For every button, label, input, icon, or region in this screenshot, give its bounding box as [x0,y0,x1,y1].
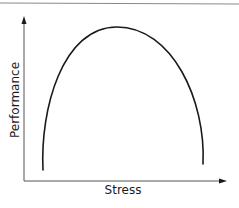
y-axis-label: Performance [8,62,22,138]
yerkes-dodson-diagram [0,0,239,208]
x-axis-label: Stress [105,183,142,197]
diagram-frame: Performance Stress [0,0,239,208]
x-axis-arrow-icon [219,179,227,184]
y-axis-arrow-icon [22,16,27,24]
performance-curve [43,27,203,170]
top-border-line [0,3,239,4]
